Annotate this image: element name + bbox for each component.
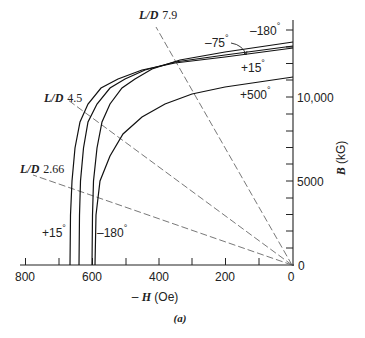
x-tick-600: 600 bbox=[82, 270, 102, 284]
label-ld-4-5: L/D4.5 bbox=[43, 91, 82, 105]
figure-caption: (a) bbox=[174, 312, 187, 325]
x-tick-400: 400 bbox=[149, 270, 169, 284]
label-ld-2-66: L/D2.66 bbox=[19, 162, 64, 176]
label-minus180-top: –180° bbox=[250, 21, 281, 38]
x-axis: 800 600 400 200 0 – H (Oe) (a) bbox=[15, 258, 295, 325]
label-minus75: –75° bbox=[205, 33, 229, 50]
label-plus15-top: +15° bbox=[241, 58, 265, 75]
label-ld-7-9: L/D7.9 bbox=[138, 8, 177, 22]
y-axis: 0 5000 10,000 B (kG) bbox=[286, 20, 348, 273]
x-tick-800: 800 bbox=[15, 270, 35, 284]
x-tick-200: 200 bbox=[215, 270, 235, 284]
curve-plus500 bbox=[95, 77, 293, 265]
y-tick-5000: 5000 bbox=[297, 175, 324, 189]
label-minus180-bottom: –180° bbox=[97, 223, 128, 240]
demagnetization-chart: 800 600 400 200 0 – H (Oe) (a) 0 5000 10… bbox=[0, 0, 365, 338]
x-tick-0: 0 bbox=[288, 270, 295, 284]
label-plus500: +500° bbox=[240, 85, 271, 102]
y-tick-0: 0 bbox=[298, 259, 305, 273]
y-axis-title: B (kG) bbox=[334, 141, 348, 177]
label-plus15-bottom: +15° bbox=[42, 223, 66, 240]
y-tick-10000: 10,000 bbox=[297, 91, 334, 105]
x-axis-title: – H (Oe) bbox=[132, 290, 179, 304]
